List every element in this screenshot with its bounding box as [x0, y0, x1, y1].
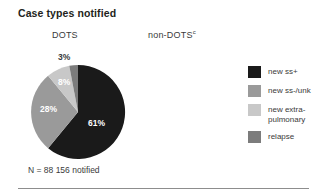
case-types-notified-chart-panel: Case types notified DOTS non-DOTSc 61% 2…: [0, 0, 334, 195]
pie-label-new-ss-minus-unk: 28%: [40, 104, 57, 114]
legend-label: new ss-/unk: [268, 85, 311, 96]
panel-label-dots: DOTS: [52, 30, 78, 40]
legend-label: new ss+: [268, 66, 298, 77]
page-title: Case types notified: [18, 7, 116, 19]
footer-divider: [18, 188, 309, 189]
legend-item-new-extra-pulmonary: new extra- pulmonary: [248, 104, 334, 124]
pie-label-new-ss-plus: 61%: [88, 118, 105, 128]
legend-swatch-icon: [248, 131, 261, 143]
pie-label-new-extra-pulmonary: 8%: [58, 77, 70, 87]
pie-label-relapse: 3%: [58, 52, 70, 62]
legend-swatch-icon: [248, 66, 261, 78]
legend-swatch-icon: [248, 104, 261, 116]
legend-label: new extra- pulmonary: [268, 104, 305, 124]
legend-item-new-ss-minus-unk: new ss-/unk: [248, 85, 334, 97]
pie-total-caption: N = 88 156 notified: [28, 165, 100, 175]
chart-legend: new ss+ new ss-/unk new extra- pulmonary…: [248, 66, 334, 150]
panel-label-non-dots: non-DOTSc: [148, 30, 196, 40]
legend-swatch-icon: [248, 85, 261, 97]
footnote-marker: c: [193, 29, 196, 35]
legend-item-relapse: relapse: [248, 131, 334, 143]
legend-label: relapse: [268, 131, 294, 142]
panel-label-non-dots-text: non-DOTS: [148, 30, 193, 40]
legend-item-new-ss-plus: new ss+: [248, 66, 334, 78]
